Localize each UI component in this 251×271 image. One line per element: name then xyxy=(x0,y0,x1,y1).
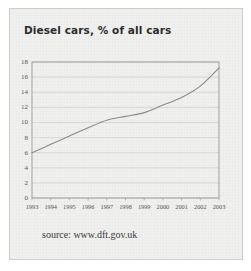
y-axis-tick-label: 0 xyxy=(14,194,28,202)
data-series-group xyxy=(32,68,219,153)
plot-frame xyxy=(32,62,219,201)
plot-area: 024681012141618 199319941995199619971998… xyxy=(10,9,243,260)
y-axis-tick-label: 16 xyxy=(14,73,28,81)
y-axis-tick-label: 6 xyxy=(14,149,28,157)
y-axis-tick-label: 4 xyxy=(14,164,28,172)
y-axis-tick-label: 10 xyxy=(14,118,28,126)
x-axis-tick-label: 2002 xyxy=(194,203,207,210)
x-axis-tick-label: 2000 xyxy=(157,203,170,210)
y-axis-tick-label: 2 xyxy=(14,179,28,187)
gridlines-group xyxy=(32,62,219,198)
scanned-page: Diesel cars, % of all cars 0246810121416… xyxy=(0,0,251,271)
y-axis-tick-label: 18 xyxy=(14,58,28,66)
x-axis-tick-label: 1996 xyxy=(82,203,95,210)
x-axis-tick-label: 1994 xyxy=(44,203,57,210)
x-axis-tick-label: 2001 xyxy=(175,203,188,210)
x-axis-tick-label: 1993 xyxy=(26,203,39,210)
y-axis-tick-label: 8 xyxy=(14,134,28,142)
x-axis-tick-label: 1997 xyxy=(101,203,114,210)
source-caption: source: www.dft.gov.uk xyxy=(42,229,137,240)
chart-figure-card: Diesel cars, % of all cars 0246810121416… xyxy=(9,8,243,260)
y-axis-tick-label: 14 xyxy=(14,88,28,96)
x-axis-tick-label: 2003 xyxy=(213,203,226,210)
x-axis-tick-label: 1999 xyxy=(138,203,151,210)
x-axis-tick-label: 1998 xyxy=(119,203,132,210)
plot-frame-rect xyxy=(32,62,219,198)
data-line xyxy=(32,68,219,153)
y-axis-tick-label: 12 xyxy=(14,103,28,111)
line-chart-svg xyxy=(10,9,243,260)
x-axis-tick-label: 1995 xyxy=(63,203,76,210)
